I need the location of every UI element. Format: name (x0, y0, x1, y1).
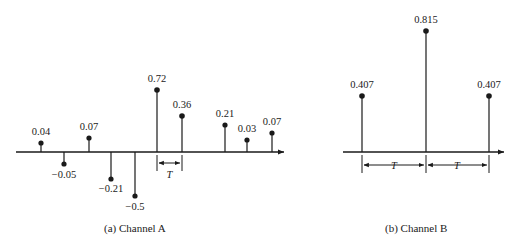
stem-0.07b-label: 0.07 (263, 116, 281, 127)
stem-0.04: 0.04 (32, 126, 51, 152)
caption-channel-b: (b) Channel B (385, 222, 447, 234)
stem-0.407-right-dot (486, 93, 492, 99)
channel-b-group: 0.407 0.815 0.407 T (343, 14, 504, 173)
stem-0.36-label: 0.36 (173, 99, 191, 110)
stem-0.72: 0.72 (148, 73, 166, 152)
stem-0.07a-label: 0.07 (80, 121, 98, 132)
stem-0.21-label: 0.21 (216, 108, 234, 119)
stem-0.03-label: 0.03 (238, 123, 256, 134)
stem-neg0.21-label: −0.21 (99, 183, 123, 194)
figure-root: 0.04 −0.05 0.07 −0.21 −0.5 (0, 0, 531, 252)
stem-0.04-dot (38, 140, 43, 145)
caption-channel-a: (a) Channel A (104, 222, 166, 234)
stem-neg0.5: −0.5 (125, 152, 144, 212)
channel-a-period-marker: T (157, 155, 182, 180)
stem-0.03: 0.03 (238, 123, 256, 152)
stem-neg0.05-dot (61, 161, 66, 166)
stem-0.407-right-label: 0.407 (477, 79, 501, 90)
stem-0.07b: 0.07 (263, 116, 281, 152)
stem-neg0.21-dot (108, 176, 113, 181)
stem-0.21: 0.21 (216, 108, 234, 152)
stem-0.815-dot (423, 28, 429, 34)
channel-b-period-marker-left: T (362, 155, 426, 173)
stem-neg0.05-label: −0.05 (52, 169, 76, 180)
channel-b-period-marker-right: T (428, 155, 489, 173)
stem-neg0.21: −0.21 (99, 152, 123, 194)
stem-0.815-label: 0.815 (414, 14, 438, 25)
stem-0.72-label: 0.72 (148, 73, 166, 84)
stem-0.407-left: 0.407 (350, 79, 374, 152)
stem-0.03-dot (244, 137, 249, 142)
channel-a-group: 0.04 −0.05 0.07 −0.21 −0.5 (16, 73, 284, 212)
stem-neg0.5-label: −0.5 (125, 201, 144, 212)
stem-0.815: 0.815 (414, 14, 438, 152)
stem-0.04-label: 0.04 (32, 126, 51, 137)
stem-0.407-left-dot (359, 93, 365, 99)
stem-0.407-right: 0.407 (477, 79, 501, 152)
stem-0.21-dot (222, 122, 227, 127)
stem-0.07a: 0.07 (80, 121, 98, 152)
stem-0.72-dot (154, 87, 160, 93)
stem-0.36-dot (179, 113, 185, 119)
stem-0.07b-dot (269, 130, 274, 135)
stem-neg0.05: −0.05 (52, 152, 76, 180)
channel-a-plot: 0.04 −0.05 0.07 −0.21 −0.5 (0, 0, 531, 252)
stem-neg0.5-dot (132, 193, 137, 198)
stem-0.407-left-label: 0.407 (350, 79, 374, 90)
period-label-T: T (167, 169, 174, 180)
stem-0.07a-dot (86, 135, 91, 140)
stem-0.36: 0.36 (173, 99, 191, 152)
